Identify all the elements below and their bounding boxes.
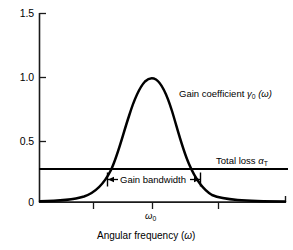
y-tick-label-0-5: 0.5 [8,135,34,147]
gain-coefficient-label: Gain coefficient γ0 (ω) [179,88,272,100]
total-loss-label: Total loss αT [216,155,268,167]
y-tick-label-1-0: 1.0 [8,71,34,83]
gain-coefficient-argument: (ω) [258,88,272,99]
gain-bandwidth-label: Gain bandwidth [120,174,186,185]
gain-spectrum-figure: 1.5 1.0 0.5 0 ω0 Angular frequency (ω) G… [0,0,293,250]
gain-coefficient-text: Gain coefficient [179,88,244,99]
gain-bandwidth-left-arrowhead [108,177,114,182]
alpha-subscript: T [264,160,268,167]
x-axis-title: Angular frequency (ω) [97,230,195,241]
x-axis-title-close: ) [192,230,195,241]
total-loss-text: Total loss [216,155,256,166]
omega-zero-subscript: 0 [152,215,156,222]
y-tick-label-1-5: 1.5 [8,7,34,19]
y-tick-label-0: 0 [8,196,34,208]
x-axis-title-text: Angular frequency ( [97,230,184,241]
x-axis-title-omega-icon: ω [184,230,192,241]
x-tick-label-omega-zero: ω0 [145,210,156,222]
